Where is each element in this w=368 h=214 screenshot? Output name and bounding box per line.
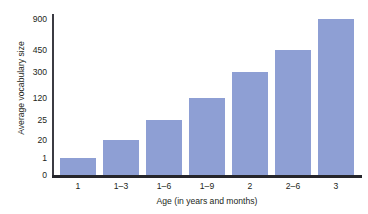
y-tick-label: 20 — [21, 135, 47, 145]
bar — [189, 98, 225, 175]
x-tick-label: 1 — [76, 181, 81, 191]
y-tick-label: 0 — [21, 170, 47, 180]
bar — [146, 120, 182, 175]
y-tick-label: 300 — [21, 67, 47, 77]
y-axis-title: Average vocabulary size — [14, 0, 28, 176]
x-tick-label: 1–3 — [114, 181, 128, 191]
x-axis-line — [52, 175, 362, 178]
y-tick-label: 120 — [21, 93, 47, 103]
bar — [60, 158, 96, 175]
x-tick-label: 1–9 — [200, 181, 214, 191]
x-tick-label: 2–6 — [286, 181, 300, 191]
clipped-top-text — [0, 0, 368, 2]
bar — [103, 140, 139, 175]
x-tick-label: 2 — [248, 181, 253, 191]
x-axis-title: Age (in years and months) — [52, 196, 362, 206]
bar — [318, 19, 354, 175]
bar — [232, 72, 268, 175]
y-tick-label: 900 — [21, 14, 47, 24]
x-tick-label: 3 — [334, 181, 339, 191]
x-tick-label: 1–6 — [157, 181, 171, 191]
y-tick-label: 1 — [21, 153, 47, 163]
y-tick-label: 25 — [21, 115, 47, 125]
bar — [275, 50, 311, 175]
y-axis-line — [52, 14, 54, 177]
plot-area: 012025120300450900 11–31–61–922–63 — [52, 14, 362, 176]
vocabulary-growth-bar-chart: Average vocabulary size 0120251203004509… — [0, 0, 368, 214]
y-tick-label: 450 — [21, 45, 47, 55]
